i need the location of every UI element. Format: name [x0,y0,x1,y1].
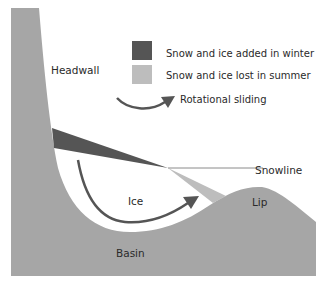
legend-swatch-ablation [132,65,152,84]
arrow-head-icon [183,196,199,209]
legend-label-ablation: Snow and ice lost in summer [166,70,311,81]
legend-swatch-accumulation [132,41,152,60]
legend-label-rotational-sliding: Rotational sliding [180,94,266,105]
cirque-glacier-diagram: Headwall Snowline Ice Lip Basin Snow and… [0,0,326,290]
accumulation-zone [52,128,168,168]
ice-label: Ice [128,195,143,207]
rotational-sliding-arrow [78,160,188,222]
basin-label: Basin [116,247,145,259]
headwall-label: Headwall [51,64,99,76]
legend-arrow-icon [117,98,165,108]
snowline-label: Snowline [255,164,302,176]
legend-label-accumulation: Snow and ice added in winter [166,48,315,59]
lip-label: Lip [252,196,268,208]
legend: Snow and ice added in winter Snow and ic… [117,41,315,108]
